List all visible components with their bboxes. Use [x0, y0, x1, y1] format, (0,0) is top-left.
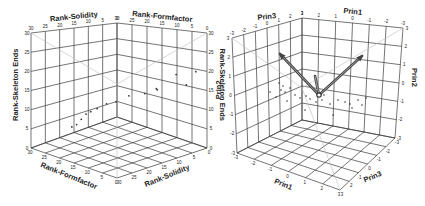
- data-point: [144, 93, 146, 95]
- figure-canvas: 3025201510503025201510503025201510503025…: [0, 0, 425, 206]
- data-point: [309, 98, 311, 100]
- data-point: [344, 101, 346, 103]
- svg-text:5: 5: [193, 155, 196, 160]
- svg-text:15: 15: [24, 88, 30, 93]
- svg-text:3: 3: [301, 11, 304, 16]
- svg-text:15: 15: [208, 88, 214, 93]
- svg-text:3: 3: [227, 36, 230, 41]
- data-point: [71, 126, 73, 128]
- data-point: [269, 91, 271, 93]
- svg-text:-2: -2: [384, 19, 388, 24]
- data-point: [282, 85, 284, 87]
- svg-text:10: 10: [24, 107, 30, 112]
- svg-text:15: 15: [161, 165, 167, 170]
- data-point: [299, 97, 301, 99]
- data-point: [332, 114, 334, 116]
- svg-text:0: 0: [286, 174, 289, 179]
- svg-text:1: 1: [228, 74, 231, 79]
- svg-text:Prin2: Prin2: [214, 80, 223, 99]
- svg-text:3: 3: [341, 192, 344, 197]
- svg-text:2: 2: [318, 13, 321, 18]
- svg-text:15: 15: [159, 21, 165, 26]
- svg-text:5: 5: [191, 24, 194, 29]
- svg-text:0: 0: [229, 93, 232, 98]
- svg-text:-3: -3: [234, 155, 238, 160]
- svg-text:-3: -3: [395, 140, 399, 145]
- svg-text:Rank-Solidity: Rank-Solidity: [143, 162, 192, 189]
- svg-text:20: 20: [144, 19, 150, 24]
- svg-text:Prin1: Prin1: [273, 176, 294, 191]
- data-point: [284, 91, 286, 93]
- svg-text:0: 0: [351, 16, 354, 21]
- svg-text:-2: -2: [242, 28, 246, 33]
- svg-text:30: 30: [27, 150, 33, 155]
- svg-text:-2: -2: [398, 117, 402, 122]
- svg-text:5: 5: [210, 126, 213, 131]
- svg-text:-2: -2: [230, 131, 234, 136]
- data-point: [315, 101, 317, 103]
- data-point: [106, 103, 108, 105]
- svg-text:-3: -3: [230, 31, 234, 36]
- data-point: [275, 96, 277, 98]
- data-point: [195, 71, 197, 73]
- svg-text:-1: -1: [367, 18, 371, 23]
- svg-text:0: 0: [208, 150, 211, 155]
- data-point: [96, 108, 98, 110]
- data-point: [365, 97, 367, 99]
- svg-text:-1: -1: [377, 157, 381, 162]
- origin-marker: [317, 93, 321, 97]
- svg-text:0: 0: [368, 166, 371, 171]
- svg-text:2: 2: [289, 14, 292, 19]
- vector-arrow-1: [279, 53, 319, 95]
- data-point: [85, 113, 87, 115]
- svg-text:2: 2: [228, 55, 231, 60]
- data-point: [357, 99, 359, 101]
- data-point: [304, 109, 306, 111]
- figure: 3025201510503025201510503025201510503025…: [0, 0, 425, 206]
- svg-text:3: 3: [406, 26, 409, 31]
- svg-text:30: 30: [24, 31, 30, 36]
- svg-text:2: 2: [404, 44, 407, 49]
- svg-text:5: 5: [101, 18, 104, 23]
- svg-text:20: 20: [56, 160, 62, 165]
- svg-text:Prin3: Prin3: [362, 169, 383, 184]
- data-point: [321, 99, 323, 101]
- svg-text:0: 0: [402, 81, 405, 86]
- svg-text:25: 25: [43, 24, 49, 29]
- svg-text:25: 25: [208, 50, 214, 55]
- data-point: [289, 87, 291, 89]
- svg-text:5: 5: [26, 126, 29, 131]
- data-point: [349, 103, 351, 105]
- svg-text:-1: -1: [400, 99, 404, 104]
- svg-text:10: 10: [85, 170, 91, 175]
- svg-text:0: 0: [266, 21, 269, 26]
- svg-text:Prin2: Prin2: [410, 68, 419, 87]
- svg-text:20: 20: [24, 69, 30, 74]
- svg-text:1: 1: [403, 62, 406, 67]
- svg-text:-1: -1: [253, 24, 257, 29]
- vector-arrow-2: [319, 55, 363, 95]
- data-point: [351, 107, 353, 109]
- svg-text:10: 10: [86, 19, 92, 24]
- left-scatter-points: [71, 71, 197, 128]
- data-point: [361, 104, 363, 106]
- data-point: [280, 89, 282, 91]
- svg-text:1: 1: [334, 14, 337, 19]
- data-point: [278, 82, 280, 84]
- svg-text:25: 25: [131, 175, 137, 180]
- svg-text:10: 10: [208, 107, 214, 112]
- data-point: [294, 94, 296, 96]
- svg-text:-2: -2: [251, 161, 255, 166]
- svg-text:15: 15: [71, 21, 77, 26]
- svg-text:1: 1: [277, 18, 280, 23]
- svg-text:30: 30: [208, 31, 214, 36]
- svg-text:30: 30: [116, 180, 122, 185]
- data-point: [128, 95, 130, 97]
- svg-text:Prin3: Prin3: [257, 11, 277, 22]
- svg-text:5: 5: [100, 175, 103, 180]
- svg-text:Rank-Formfactor: Rank-Formfactor: [39, 160, 98, 191]
- svg-text:30: 30: [114, 16, 120, 21]
- svg-text:-2: -2: [386, 149, 390, 154]
- data-point: [175, 74, 177, 76]
- data-point: [329, 103, 331, 105]
